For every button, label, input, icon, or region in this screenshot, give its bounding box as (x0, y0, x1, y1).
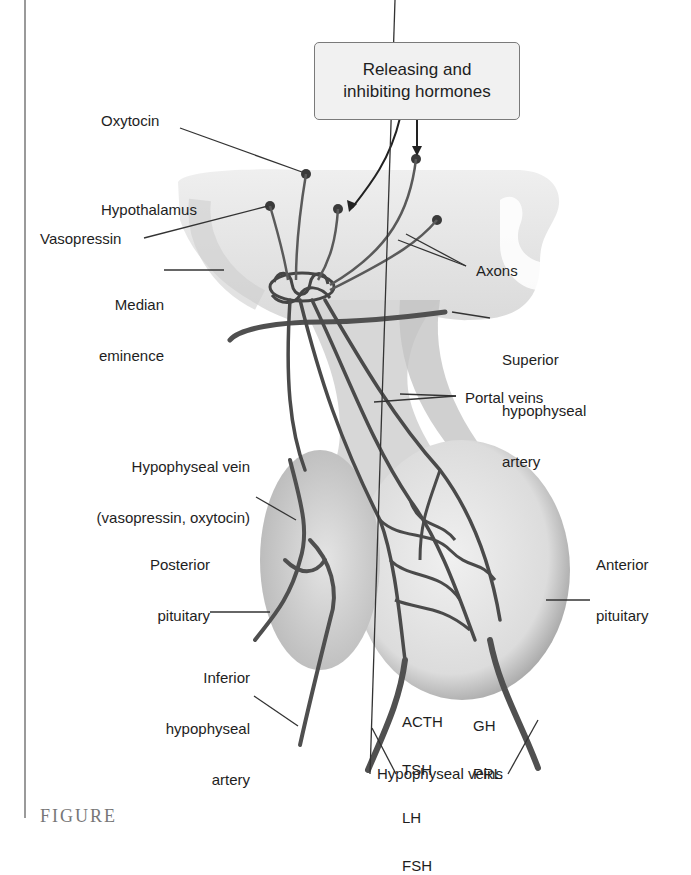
hormone-acth: ACTH (402, 714, 443, 730)
label-hypothalamus: Hypothalamus (101, 201, 197, 218)
hypophyseal-vein-line-1: Hypophyseal vein (40, 458, 250, 475)
label-portal-veins: Portal veins (465, 389, 543, 406)
label-axons: Axons (476, 262, 518, 279)
posterior-line-1: Posterior (100, 556, 210, 573)
label-inferior-hypophyseal-artery: Inferior hypophyseal artery (130, 635, 250, 805)
posterior-line-2: pituitary (100, 607, 210, 624)
median-eminence-line-2: eminence (80, 347, 164, 364)
label-median-eminence: Median eminence (80, 262, 164, 381)
hormone-lh: LH (402, 810, 443, 826)
hormone-fsh: FSH (402, 858, 443, 874)
label-oxytocin: Oxytocin (101, 112, 159, 129)
callout-line-1: Releasing and (343, 59, 490, 81)
inferior-line-1: Inferior (130, 669, 250, 686)
median-eminence-line-1: Median (80, 296, 164, 313)
superior-line-1: Superior (502, 351, 586, 368)
anterior-line-2: pituitary (596, 607, 649, 624)
inferior-line-3: artery (130, 771, 250, 788)
anterior-line-1: Anterior (596, 556, 649, 573)
label-vasopressin: Vasopressin (40, 230, 121, 247)
hormone-gh: GH (473, 718, 502, 734)
figure-caption-partial: FIGURE (40, 806, 117, 827)
callout-line-2: inhibiting hormones (343, 81, 490, 103)
label-posterior-pituitary: Posterior pituitary (100, 522, 210, 641)
label-hypophyseal-veins: Hypophyseal veins (377, 765, 503, 782)
label-anterior-pituitary: Anterior pituitary (596, 522, 649, 641)
releasing-inhibiting-hormones-callout: Releasing and inhibiting hormones (314, 42, 520, 120)
inferior-line-2: hypophyseal (130, 720, 250, 737)
superior-line-3: artery (502, 453, 586, 470)
